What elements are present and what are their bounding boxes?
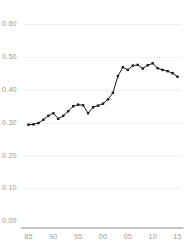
data-point-marker: [87, 112, 89, 114]
data-point-marker: [171, 72, 173, 74]
data-point-marker: [132, 64, 134, 66]
series-polyline: [28, 63, 177, 124]
data-point-marker: [57, 118, 59, 120]
data-point-marker: [72, 105, 74, 107]
x-axis-tick-label: 15: [169, 233, 184, 240]
data-point-marker: [32, 123, 34, 125]
x-axis-tick-label: 85: [19, 233, 37, 240]
chart-plot-area: [0, 0, 184, 247]
data-point-marker: [42, 119, 44, 121]
data-point-marker: [147, 64, 149, 66]
x-axis-tick-label: 10: [144, 233, 162, 240]
data-point-marker: [166, 70, 168, 72]
data-point-marker: [77, 103, 79, 105]
y-axis-tick-label: 0.10: [2, 184, 17, 191]
data-point-marker: [82, 104, 84, 106]
data-point-marker: [137, 64, 139, 66]
data-point-marker: [102, 102, 104, 104]
data-point-marker: [37, 122, 39, 124]
chart-container: 0.000.100.200.300.400.500.60 85909500051…: [0, 0, 184, 247]
data-point-marker: [92, 106, 94, 108]
data-point-marker: [47, 115, 49, 117]
data-point-marker: [176, 76, 178, 78]
y-axis-tick-label: 0.20: [2, 152, 17, 159]
data-point-marker: [107, 98, 109, 100]
data-point-marker: [122, 66, 124, 68]
y-axis-tick-label: 0.00: [2, 217, 17, 224]
y-axis-tick-label: 0.60: [2, 20, 17, 27]
y-axis-tick-label: 0.40: [2, 86, 17, 93]
gridlines: [25, 25, 182, 222]
data-point-marker: [112, 92, 114, 94]
data-point-marker: [97, 104, 99, 106]
x-axis-tick-label: 05: [119, 233, 137, 240]
data-point-marker: [156, 67, 158, 69]
data-point-marker: [27, 123, 29, 125]
data-point-marker: [151, 62, 153, 64]
x-axis-tick-label: 90: [44, 233, 62, 240]
data-point-marker: [117, 75, 119, 77]
data-point-markers: [27, 62, 178, 126]
data-point-marker: [62, 115, 64, 117]
x-axis-tick-label: 95: [69, 233, 87, 240]
data-point-marker: [161, 69, 163, 71]
y-axis-tick-label: 0.50: [2, 53, 17, 60]
data-point-marker: [142, 67, 144, 69]
x-axis-tick-label: 00: [94, 233, 112, 240]
data-point-marker: [127, 69, 129, 71]
data-point-marker: [67, 110, 69, 112]
data-point-marker: [52, 112, 54, 114]
y-axis-tick-label: 0.30: [2, 119, 17, 126]
data-series-line: [28, 63, 177, 124]
